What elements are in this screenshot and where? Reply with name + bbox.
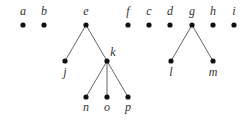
node-d bbox=[167, 22, 172, 27]
node-e bbox=[83, 22, 88, 27]
node-label-n: n bbox=[83, 100, 89, 114]
forest-diagram: abefcdghijknoplm bbox=[0, 0, 252, 120]
node-label-a: a bbox=[20, 4, 26, 18]
node-l bbox=[168, 58, 173, 63]
node-label-h: h bbox=[210, 4, 216, 18]
node-label-d: d bbox=[167, 4, 174, 18]
node-b bbox=[41, 22, 46, 27]
node-label-b: b bbox=[41, 4, 47, 18]
edge-e-k bbox=[86, 25, 107, 61]
node-label-k: k bbox=[110, 45, 116, 59]
node-n bbox=[83, 94, 88, 99]
node-f bbox=[125, 22, 130, 27]
diagram-svg: abefcdghijknoplm bbox=[0, 0, 252, 120]
edges-layer bbox=[65, 25, 213, 97]
node-c bbox=[146, 22, 151, 27]
node-g bbox=[189, 22, 194, 27]
node-label-i: i bbox=[232, 4, 235, 18]
node-label-o: o bbox=[104, 100, 110, 114]
nodes-layer bbox=[20, 22, 236, 99]
edge-g-m bbox=[192, 25, 213, 61]
node-label-g: g bbox=[189, 4, 195, 18]
node-label-e: e bbox=[83, 4, 89, 18]
node-o bbox=[104, 94, 109, 99]
node-k bbox=[104, 58, 109, 63]
node-label-c: c bbox=[146, 4, 152, 18]
node-p bbox=[125, 94, 130, 99]
edge-e-j bbox=[65, 25, 86, 61]
edge-k-n bbox=[86, 61, 107, 97]
node-label-m: m bbox=[209, 65, 218, 79]
node-i bbox=[231, 22, 236, 27]
edge-g-l bbox=[171, 25, 192, 61]
node-label-p: p bbox=[124, 100, 131, 114]
node-label-j: j bbox=[61, 65, 67, 79]
node-label-l: l bbox=[169, 65, 173, 79]
node-m bbox=[210, 58, 215, 63]
node-a bbox=[20, 22, 25, 27]
node-label-f: f bbox=[126, 4, 131, 18]
edge-k-p bbox=[107, 61, 128, 97]
node-h bbox=[210, 22, 215, 27]
node-j bbox=[62, 58, 67, 63]
